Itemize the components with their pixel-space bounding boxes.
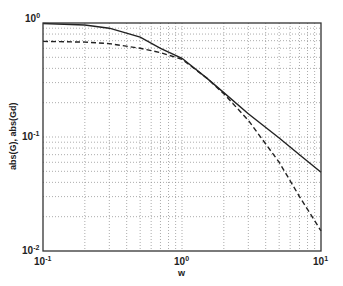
bode-magnitude-plot xyxy=(0,0,343,286)
y-tick-1e-1: 10-1 xyxy=(22,130,39,142)
x-tick-1e1: 101 xyxy=(313,255,328,267)
x-tick-1e0: 100 xyxy=(174,255,189,267)
grid-lines xyxy=(43,23,321,251)
x-tick-1e-1: 10-1 xyxy=(34,255,51,267)
curve-abs-gd xyxy=(43,41,321,231)
y-axis-label: abs(G), abs(Gd) xyxy=(8,102,18,170)
data-curves xyxy=(43,24,321,231)
y-tick-1e0: 100 xyxy=(25,12,40,24)
x-axis-label: w xyxy=(178,268,185,278)
